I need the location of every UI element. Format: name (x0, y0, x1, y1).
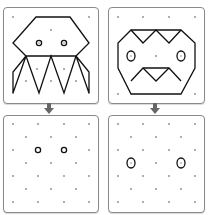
octopus-drawing (4, 8, 98, 103)
panel-grid-right (108, 115, 205, 213)
arrow-down-icon (150, 103, 160, 114)
panel-octopus (3, 7, 99, 104)
panel-face (108, 7, 205, 104)
arrow-down-icon (44, 103, 54, 114)
face-drawing (109, 8, 204, 103)
panel-grid-left (3, 115, 99, 213)
dot-grid-left (4, 116, 98, 212)
dot-grid-right (109, 116, 204, 212)
